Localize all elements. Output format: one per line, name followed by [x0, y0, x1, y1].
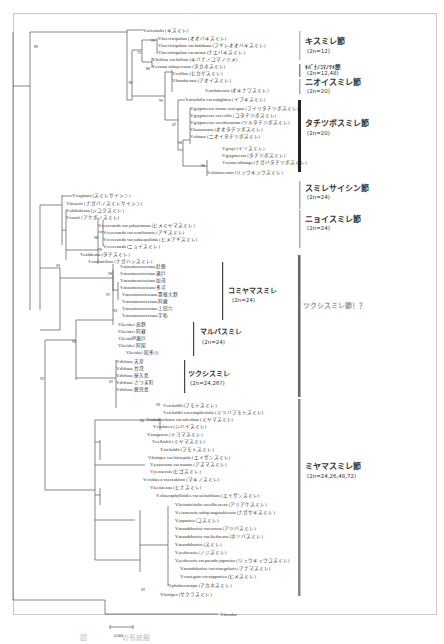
leaf-label: V.phalacrocarpa (アカネスミレ) [168, 583, 232, 589]
leaf-label: V.shikokiana (シコクスミレ) [66, 208, 124, 214]
label: (2n=24,26?) [190, 380, 225, 386]
label: (2n=24) [232, 297, 255, 303]
label: (2n=20) [307, 130, 330, 136]
section-bars [298, 31, 301, 596]
label: (2n=24,26,48,72) [307, 473, 356, 479]
leaf-label: V.yazawana var.asuana (アズマスミレ) [150, 461, 227, 468]
leaf-label: V.inagawae (トヨマスミレ) [147, 432, 203, 438]
bootstrap-value: 47 [172, 123, 176, 127]
leaf-label: V.maximowicziana 瀬戸 [120, 270, 166, 277]
leaf-label: V.yedoensis (ノジスミレ) [175, 550, 227, 555]
bootstrap-value: 93 [132, 336, 136, 340]
leaf-label: V.keiskeana (ヒナスミレ) [150, 485, 202, 491]
leaf-label: V.grypoceras (タチツボスミレ) [222, 152, 286, 159]
bootstrap-value: 98 [108, 272, 112, 276]
leaf-label: V.obtusa (ニオイタチツボスミレ) [190, 133, 261, 140]
leaf-label: V.collina (ヒカゲスミレ) [172, 70, 223, 77]
figure-caption: 図 の系統樹 [80, 633, 192, 642]
leaf-label: V.violacea (シハイスミレ) [153, 424, 207, 429]
bootstrap-value: 95 [140, 419, 144, 423]
label: (2n=12) [307, 48, 330, 54]
bootstrap-value: 99 [98, 248, 102, 252]
leaf-label: V.ovato-oblonga (ナガバタチツボスミレ) [222, 159, 307, 166]
section-labels: キスミレ節 (2n=12) ｷﾊﾞﾅﾉｺﾏﾉﾂﾒ節 (2n=12,48) ニオイ… [303, 36, 369, 479]
leaf-label: V.chaerophylloides var.sieboldiana (エイザン… [156, 493, 260, 499]
leaf-label: V.sieboldii (フモトスミレ) [163, 403, 217, 408]
bootstrap-value: 93 [156, 403, 160, 407]
leaf-label: V.mandshurica var.crassa (アツバスミレ) [175, 526, 256, 532]
leaf-label: V.japonica (コスミレ) [175, 518, 219, 523]
leaf-label: V.hirtipes var.latisepala (エイザンスミレ) [148, 455, 231, 461]
leaf-label: V.diffusa 屋久島 [116, 372, 149, 379]
bootstrap-value: 99 [159, 99, 163, 103]
leaf-label: V.brevistipulata (オオバキスミレ) [158, 36, 227, 41]
leaf-label: V.maximowicziana 宇和 [122, 312, 168, 319]
leaf-label: V.yezoensis (ヒゴスミレ) [150, 468, 201, 474]
leaf-label: V.selkirkii (ミヤマスミレ) [152, 439, 206, 445]
section-label: キスミレ節 [305, 36, 345, 46]
leaf-label: V.sieboldii var.simplicifolia (ミツバフモトスミレ… [163, 410, 264, 415]
leaf-label: V.maximowicziana 加茂 [120, 277, 166, 284]
leaf-label: V.sieboldii (フモトスミレ) [160, 447, 214, 452]
label: ツクシスミレ [188, 369, 230, 378]
leaf-label: V.mirabilis var.subglabra (イブキスミレ) [185, 96, 266, 102]
bootstrap-value: 92 [40, 377, 44, 381]
leaf-label: V.tokubuchiana var.takedana (ミヤマスミレ) [146, 417, 234, 423]
leaf-label: V.diffusa 台湾 [116, 365, 144, 372]
leaf-outgroup: V.bicolor [220, 612, 237, 617]
leaf-label: V.yedoensis var.pseudo-japonica (リュウキュウコ… [175, 557, 290, 563]
bootstrap-value: 92 [109, 380, 113, 384]
leaf-label: V.verecunda var.yakusimana (ヒメミヤマスミレ) [98, 223, 195, 229]
leaf-label: V.maximowicziana 鈴鹿 [120, 263, 166, 270]
bootstrap-value: 86 [146, 67, 150, 71]
label: (2n=12,48) [307, 70, 339, 76]
bootstrap-value: 98 [178, 141, 182, 145]
leaf-label: V.keiskei 阿蘇 [118, 328, 146, 335]
leaf-label: V.grayi (イソスミレ) [222, 146, 265, 151]
bootstrap-value: 78 [128, 81, 132, 85]
leaf-label: V.orientalis (キスミレ) [143, 28, 189, 33]
bootstrap-value: 94 [72, 340, 76, 344]
bootstrap-value: 93 [56, 264, 60, 268]
label: (2n=24) [202, 339, 225, 345]
leaf-label: V.grypoceras var.exilis (コタチツボスミレ) [190, 112, 277, 119]
leaf-label: V.eizanensis subsp.nagasakiensis (ナガサキスミ… [175, 509, 275, 516]
leaf-label: V.rossii (アケボノスミレ) [66, 214, 120, 221]
leaf-label: V.bissetii (ナガバノスミレサイシン) [66, 200, 143, 207]
label: コミヤマスミレ [228, 287, 277, 295]
leaf-label: V.biflora var.biflora (キバナノコマノツメ) [152, 57, 238, 63]
leaf-label: V.keiskei 阿知 [118, 342, 146, 349]
leaf-labels: V.orientalis (キスミレ) V.brevistipulata (オオ… [66, 28, 307, 598]
label: (2n=20) [307, 88, 330, 94]
group-brackets: コミヤマスミレ (2n=24) マルバスミレ (2n=24) ツクシスミレ (2… [184, 262, 277, 393]
label: ツクシスミレ節！？ [303, 301, 366, 310]
leaf-label: V.violacea var.makinoi (マキノスミレ) [143, 477, 220, 483]
leaf-label: V.diffusa さつま町 [116, 379, 154, 385]
leaf-label: V.maximowicziana 豊根大野 [122, 291, 178, 298]
leaf-label: V.keiskei 知多川 [126, 349, 159, 356]
leaf-label: V.maximowicziana 多可 [120, 284, 166, 291]
leaf-label: V.okinawensis (リュウキュウスミレ) [207, 169, 283, 175]
leaf-label: V.maximowicziana 阿蘇 [122, 298, 168, 305]
bootstrap-value: 98 [94, 236, 98, 240]
leaf-label: V.verecunda (ニョイスミレ) [103, 244, 160, 250]
leaf-label: V.grypoceras var.rhizomata (ツルタチツボスミレ) [190, 119, 290, 126]
leaf-label: V.mandshurica (スミレ) [175, 542, 222, 547]
leaf-label: V.verecunda var.subaequiloba (ヒメアギスミレ) [103, 237, 198, 243]
bootstrap-value: 75 [137, 51, 141, 55]
leaf-label: V.variegata var.nipponica (ヒメスミレ) [180, 574, 256, 579]
bootstrap-value: 96 [201, 164, 205, 168]
leaf-label: V.betonicifolia var.albescens (アリアケスミレ) [175, 501, 267, 508]
label: タチツボスミレ節 [305, 118, 369, 128]
label: マルバスミレ [200, 328, 242, 336]
label: (2n=24) [307, 194, 330, 200]
bootstrap-value: 97 [106, 293, 110, 297]
leaf-label: V.grypoceras forma variegata (フイリタチツボスミレ… [190, 105, 299, 112]
leaf-label: V.kusanoana (オオタチツボスミレ) [190, 126, 263, 133]
leaf-label: V.verecunda var.semilunaris (アギスミレ) [103, 230, 185, 236]
leaf-label: V.keiskei 高野 [118, 321, 146, 328]
leaf-label: V.utchinensis (オキナワスミレ) [205, 88, 269, 94]
label: (2n=24) [307, 225, 330, 231]
leaf-label: V.mandshurica var.ikedaeana (ホソバスミレ) [175, 534, 263, 539]
label: スミレサイシン節 [305, 183, 369, 193]
